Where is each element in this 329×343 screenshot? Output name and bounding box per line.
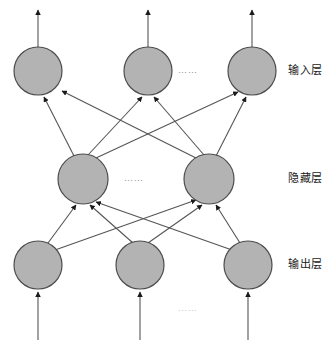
edge-h1-t1 [154,97,204,155]
edge-b2-h1 [216,205,240,243]
input-layer-nodes [14,47,276,95]
edges-hidden-to-top [44,91,246,158]
ellipsis-input-layer: …… [178,66,198,75]
edge-b2-h0 [96,202,232,250]
edge-b0-h0 [48,205,76,243]
node-input-3[interactable] [228,47,276,95]
layer-label-input: 输入层 [288,65,323,76]
node-output-1[interactable] [14,241,62,289]
edge-h0-t0 [44,97,74,156]
edge-h0-t1 [88,97,142,155]
edge-h1-t2 [216,97,246,156]
node-output-2[interactable] [116,241,164,289]
edge-b0-h1 [55,200,196,250]
external-output-arrows [38,10,252,48]
layer-label-hidden: 隐藏层 [288,173,323,184]
edge-b1-h1 [148,205,202,243]
edge-h1-t0 [62,91,196,158]
node-output-3[interactable] [224,241,272,289]
diagram-canvas: …… …… …… 输入层 隐藏层 输出层 [0,0,329,343]
edge-h0-t2 [96,92,238,158]
edge-b1-h0 [90,205,133,243]
ellipsis-output-layer: …… [178,304,198,313]
neural-network-diagram [0,0,329,343]
node-input-1[interactable] [14,47,62,95]
output-layer-nodes [14,241,272,289]
ellipsis-hidden-layer: …… [124,174,144,183]
external-input-arrows [38,292,248,340]
node-hidden-2[interactable] [184,154,234,204]
node-input-2[interactable] [124,47,172,95]
node-hidden-1[interactable] [58,154,108,204]
hidden-layer-nodes [58,154,234,204]
layer-label-output: 输出层 [288,259,323,270]
